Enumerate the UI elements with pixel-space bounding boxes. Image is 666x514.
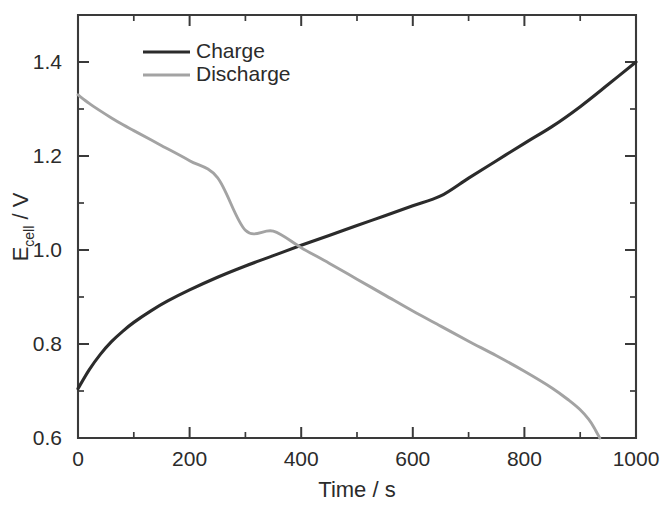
legend-label-discharge: Discharge [196, 62, 291, 85]
y-axis-title: Ecell / V [8, 192, 37, 261]
y-axis-title-unit: / V [8, 192, 33, 225]
y-axis-title-main: E [8, 247, 33, 262]
x-tick-label: 1000 [613, 447, 660, 470]
y-tick-label: 1.4 [33, 50, 63, 73]
legend: ChargeDischarge [143, 39, 291, 85]
series-lines [78, 62, 636, 438]
y-tick-label: 1.2 [33, 144, 62, 167]
y-axis-major-ticks [78, 62, 636, 438]
y-axis-tick-labels: 0.60.81.01.21.4 [33, 50, 63, 449]
y-axis-title-subscript: cell [21, 226, 37, 247]
x-tick-label: 200 [172, 447, 207, 470]
x-tick-label: 0 [72, 447, 84, 470]
series-line-charge [78, 62, 636, 389]
chart-figure: 0.60.81.01.21.4 02004006008001000 Time /… [0, 0, 666, 514]
y-tick-label: 0.6 [33, 426, 62, 449]
line-chart: 0.60.81.01.21.4 02004006008001000 Time /… [0, 0, 666, 514]
x-tick-label: 600 [395, 447, 430, 470]
x-axis-title: Time / s [318, 477, 395, 502]
x-tick-label: 400 [284, 447, 319, 470]
y-axis-minor-ticks [78, 15, 636, 391]
x-tick-label: 800 [507, 447, 542, 470]
y-tick-label: 1.0 [33, 238, 62, 261]
x-axis-tick-labels: 02004006008001000 [72, 447, 659, 470]
legend-label-charge: Charge [196, 39, 265, 62]
y-tick-label: 0.8 [33, 332, 62, 355]
